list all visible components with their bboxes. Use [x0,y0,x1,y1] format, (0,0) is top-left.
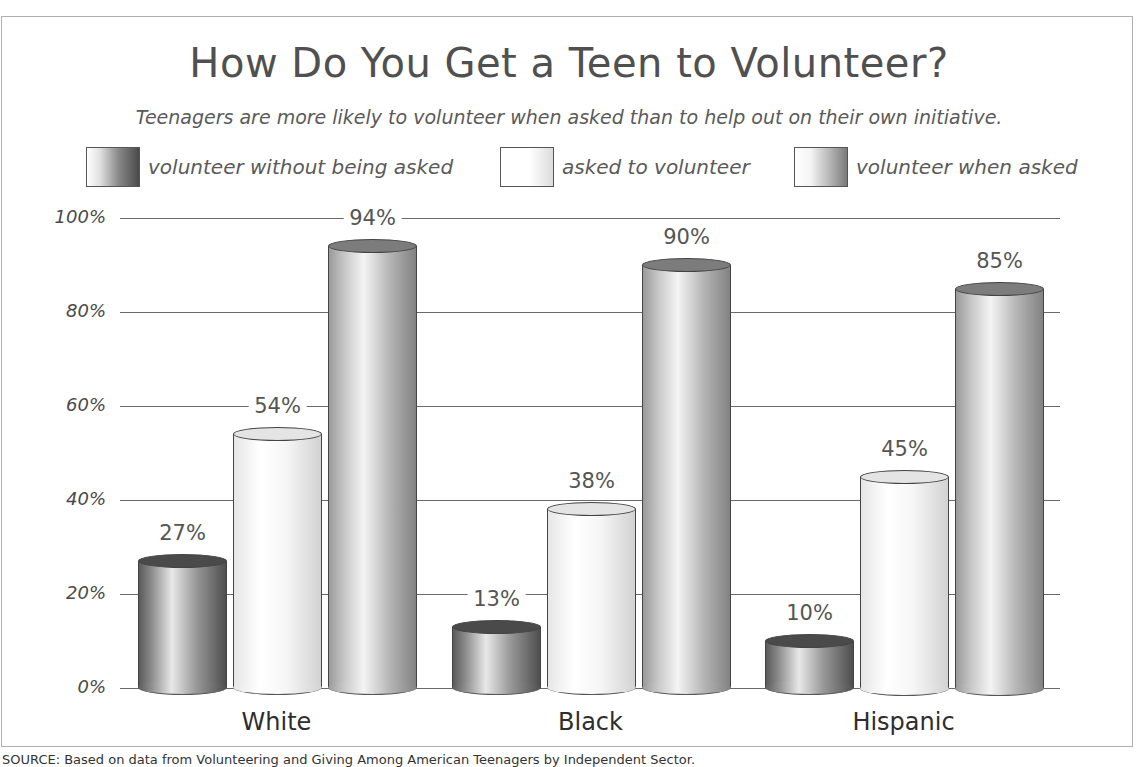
category-label: Hispanic [852,708,954,736]
legend-label: volunteer when asked [856,155,1078,179]
bar-top [233,427,322,441]
bar-top [328,239,417,253]
bar [547,509,636,688]
value-label: 54% [248,394,307,418]
value-label: 27% [153,521,212,545]
bar [233,434,322,688]
bar-top [642,258,731,272]
bar-base [955,681,1044,696]
value-label: 85% [970,249,1029,273]
y-tick-label: 40% [20,488,106,509]
legend-item-asked: asked to volunteer [500,146,750,188]
bar-base [547,680,636,695]
chart-subtitle: Teenagers are more likely to volunteer w… [0,106,1138,128]
bar-base [765,680,854,695]
value-label: 90% [657,225,716,249]
legend-swatch-mid [794,147,848,187]
gridline [120,312,1060,313]
legend-label: volunteer without being asked [148,155,453,179]
bar-base [138,680,227,695]
bar-base [452,680,541,695]
y-tick-label: 80% [20,300,106,321]
bar-top [765,634,854,648]
value-label: 10% [780,601,839,625]
source-note: SOURCE: Based on data from Volunteering … [2,752,695,767]
value-label: 45% [875,437,934,461]
legend-swatch-dark [86,147,140,187]
bar-base [642,680,731,695]
bar-top [452,620,541,634]
value-label: 94% [343,206,402,230]
y-tick-label: 20% [20,582,106,603]
bar [328,246,417,688]
bar-base [860,681,949,696]
y-tick-label: 100% [20,206,106,227]
gridline [120,218,1060,219]
bar-top [860,470,949,484]
bar [452,627,541,688]
y-tick-label: 0% [20,676,106,697]
legend-item-without-asked: volunteer without being asked [86,146,453,188]
bar [642,265,731,688]
legend-swatch-light [500,147,554,187]
bar-top [138,554,227,568]
bar [955,289,1044,689]
value-label: 13% [467,587,526,611]
bar [765,641,854,688]
bar [860,477,949,689]
y-tick-label: 60% [20,394,106,415]
category-label: White [242,708,312,736]
bar-base [328,680,417,695]
bar [138,561,227,688]
bar-base [233,680,322,695]
bar-top [547,502,636,516]
legend-label: asked to volunteer [562,155,750,179]
bar-top [955,282,1044,296]
category-label: Black [558,708,623,736]
chart-title: How Do You Get a Teen to Volunteer? [0,40,1138,86]
legend-item-when-asked: volunteer when asked [794,146,1078,188]
value-label: 38% [562,469,621,493]
